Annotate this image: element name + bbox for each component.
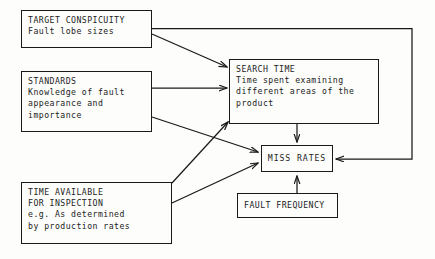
node-time-available-line-3: e.g. As determined: [28, 209, 166, 220]
node-search-time-line-4: product: [236, 98, 373, 109]
node-search-time[interactable]: SEARCH TIME Time spent examining differe…: [229, 59, 379, 124]
node-target-conspicuity[interactable]: TARGET CONSPICUITY Fault lobe sizes: [21, 10, 152, 48]
node-time-available-line-1: TIME AVAILABLE: [28, 187, 166, 198]
node-fault-frequency-label: FAULT FREQUENCY: [244, 200, 325, 211]
node-search-time-line-2: Time spent examining: [236, 75, 373, 86]
node-standards[interactable]: STANDARDS Knowledge of fault appearance …: [21, 71, 152, 132]
node-search-time-line-3: different areas of the: [236, 86, 373, 97]
node-miss-rates[interactable]: MISS RATES: [261, 145, 333, 172]
node-standards-line-1: STANDARDS: [28, 76, 146, 87]
diagram-canvas: TARGET CONSPICUITY Fault lobe sizes STAN…: [0, 0, 435, 259]
node-miss-rates-label: MISS RATES: [268, 153, 326, 164]
node-time-available-line-2: FOR INSPECTION: [28, 198, 166, 209]
node-time-available[interactable]: TIME AVAILABLE FOR INSPECTION e.g. As de…: [21, 182, 172, 244]
edge-target-to-searchtime: [152, 34, 227, 67]
node-target-conspicuity-line-2: Fault lobe sizes: [28, 26, 146, 37]
node-standards-line-3: appearance and: [28, 98, 146, 109]
node-standards-line-4: importance: [28, 110, 146, 121]
node-time-available-line-4: by production rates: [28, 221, 166, 232]
node-standards-line-2: Knowledge of fault: [28, 87, 146, 98]
node-fault-frequency[interactable]: FAULT FREQUENCY: [237, 193, 338, 218]
node-search-time-line-1: SEARCH TIME: [236, 64, 373, 75]
node-target-conspicuity-line-1: TARGET CONSPICUITY: [28, 15, 146, 26]
edge-timeavail-to-searchtime: [172, 122, 228, 183]
